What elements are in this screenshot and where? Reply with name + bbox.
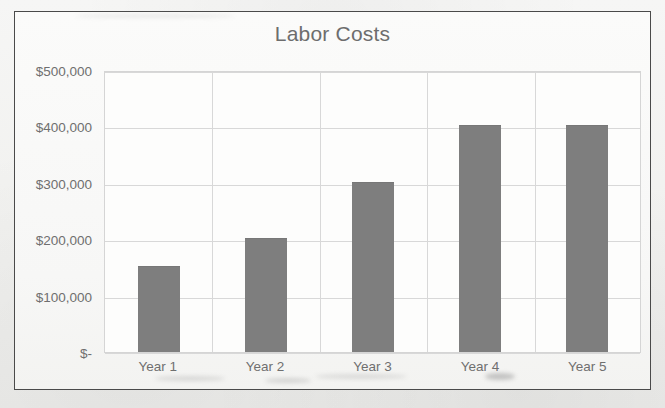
x-axis: Year 1Year 2Year 3Year 4Year 5	[104, 359, 641, 374]
bar[interactable]	[459, 125, 501, 352]
bar[interactable]	[138, 266, 180, 352]
y-tick-label: $300,000	[6, 177, 92, 192]
x-tick-label: Year 4	[426, 359, 533, 374]
bar[interactable]	[245, 238, 287, 352]
y-tick-label: $200,000	[6, 233, 92, 248]
x-tick-label: Year 2	[211, 359, 318, 374]
bar-cell	[426, 72, 533, 352]
chart-frame: Labor Costs $500,000 $400,000 $300,000 $…	[14, 11, 651, 390]
y-tick-label: $500,000	[6, 64, 92, 79]
bar-cell	[533, 72, 640, 352]
bar[interactable]	[566, 125, 608, 352]
x-tick-label: Year 5	[534, 359, 641, 374]
chart-title: Labor Costs	[15, 22, 650, 46]
plot-area	[104, 71, 641, 353]
bar-cell	[212, 72, 319, 352]
bar-cell	[105, 72, 212, 352]
bar[interactable]	[352, 182, 394, 352]
bar-cell	[319, 72, 426, 352]
x-tick-label: Year 3	[319, 359, 426, 374]
bar-series	[105, 72, 640, 352]
x-tick-label: Year 1	[104, 359, 211, 374]
y-tick-label: $-	[6, 346, 92, 361]
y-tick-label: $100,000	[6, 290, 92, 305]
gridline-horizontal	[105, 353, 640, 354]
y-tick-label: $400,000	[6, 120, 92, 135]
